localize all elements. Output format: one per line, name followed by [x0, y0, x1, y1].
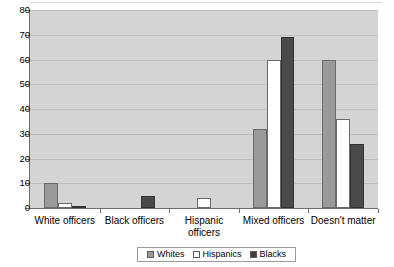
bar-whites-4 [322, 60, 336, 209]
bar-blacks-3 [281, 37, 295, 208]
legend-swatch-icon [250, 251, 257, 258]
y-tick-label: 10 [6, 178, 30, 188]
legend-item-blacks: Blacks [250, 250, 287, 259]
x-tick-mark [239, 209, 240, 213]
y-tick-label: 0 [6, 203, 30, 213]
bar-hispanics-2 [197, 198, 211, 208]
legend-label: Whites [157, 250, 185, 259]
x-axis-line [29, 208, 378, 209]
bar-hispanics-0 [58, 203, 72, 208]
legend-item-hispanics: Hispanics [193, 250, 242, 259]
bar-whites-3 [253, 129, 267, 208]
x-tick-mark [308, 209, 309, 213]
legend-label: Hispanics [203, 250, 242, 259]
y-tick-label: 20 [6, 154, 30, 164]
legend-swatch-icon [147, 251, 154, 258]
top-divider [30, 2, 382, 3]
x-tick-mark [169, 209, 170, 213]
y-tick-label: 30 [6, 129, 30, 139]
bars-layer [30, 10, 378, 208]
y-tick-label: 50 [6, 79, 30, 89]
x-tick-mark [378, 209, 379, 213]
bar-hispanics-4 [336, 119, 350, 208]
y-tick-label: 80 [6, 5, 30, 15]
x-axis-label-4: Doesn't matter [302, 215, 384, 227]
bar-chart: 01020304050607080 White officersBlack of… [0, 0, 394, 267]
x-label-line: officers [163, 227, 245, 239]
y-tick-label: 60 [6, 55, 30, 65]
y-tick-label: 40 [6, 104, 30, 114]
x-label-line: Doesn't matter [302, 215, 384, 227]
bar-hispanics-3 [267, 60, 281, 209]
x-tick-mark [100, 209, 101, 213]
bar-blacks-1 [141, 196, 155, 208]
bar-blacks-0 [72, 206, 86, 208]
bar-whites-0 [44, 183, 58, 208]
y-tick-label: 70 [6, 30, 30, 40]
legend-label: Blacks [260, 250, 287, 259]
legend-swatch-icon [193, 251, 200, 258]
bar-blacks-4 [350, 144, 364, 208]
legend-item-whites: Whites [147, 250, 185, 259]
chart-legend: WhitesHispanicsBlacks [137, 247, 296, 262]
